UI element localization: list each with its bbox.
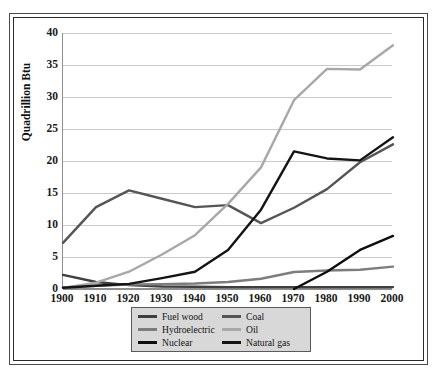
y-tick-label: 40 xyxy=(24,27,58,39)
legend-swatch-icon xyxy=(222,328,241,331)
y-tick-label: 25 xyxy=(24,123,58,135)
series-line-natural-gas xyxy=(63,137,393,287)
series-line-nuclear xyxy=(294,236,393,289)
legend-item-coal[interactable]: Coal xyxy=(222,312,306,322)
x-axis-tick-labels: 1900191019201930194019501960197019801990… xyxy=(62,292,392,308)
y-tick-label: 35 xyxy=(24,59,58,71)
y-tick-label: 20 xyxy=(24,155,58,167)
legend-label: Hydroelectric xyxy=(162,325,215,335)
x-tick-label: 2000 xyxy=(370,292,414,304)
y-tick-label: 10 xyxy=(24,219,58,231)
legend-swatch-icon xyxy=(222,341,241,344)
legend-label: Coal xyxy=(246,312,264,322)
legend-item-oil[interactable]: Oil xyxy=(222,325,306,335)
plot-area xyxy=(62,33,392,289)
legend-item-nuclear[interactable]: Nuclear xyxy=(138,338,222,348)
legend-label: Nuclear xyxy=(162,338,192,348)
legend-item-fuel-wood[interactable]: Fuel wood xyxy=(138,312,222,322)
legend-swatch-icon xyxy=(222,315,241,318)
legend-label: Natural gas xyxy=(246,338,290,348)
legend-item-natural-gas[interactable]: Natural gas xyxy=(222,338,306,348)
legend-item-hydroelectric[interactable]: Hydroelectric xyxy=(138,325,222,335)
legend-swatch-icon xyxy=(138,328,157,331)
legend-label: Fuel wood xyxy=(162,312,203,322)
y-axis-tick-labels: 0510152025303540 xyxy=(20,33,58,289)
series-lines xyxy=(63,33,393,289)
chart-legend: Fuel woodCoalHydroelectricOilNuclearNatu… xyxy=(131,307,311,352)
legend-swatch-icon xyxy=(138,341,157,344)
series-line-oil xyxy=(63,45,393,288)
y-tick-label: 5 xyxy=(24,251,58,263)
legend-swatch-icon xyxy=(138,315,157,318)
y-tick-label: 15 xyxy=(24,187,58,199)
y-tick-label: 30 xyxy=(24,91,58,103)
legend-label: Oil xyxy=(246,325,258,335)
